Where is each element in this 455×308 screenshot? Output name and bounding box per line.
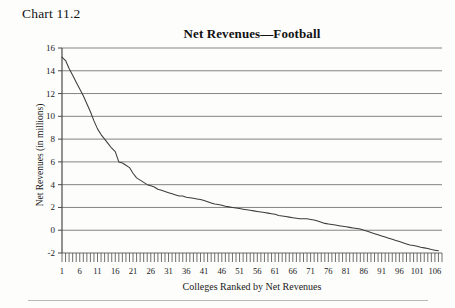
x-tick-label: 16 bbox=[111, 266, 120, 276]
x-tick-label: 106 bbox=[428, 266, 442, 276]
chart-plot-area: -20246810121416 161116212631364146515661… bbox=[0, 0, 455, 308]
page-divider-rule bbox=[28, 300, 428, 301]
x-tick-label: 51 bbox=[235, 266, 244, 276]
y-tick-label: 0 bbox=[51, 225, 56, 235]
x-tick-label: 21 bbox=[129, 266, 138, 276]
x-tick-label: 31 bbox=[164, 266, 173, 276]
y-tick-label: 16 bbox=[46, 43, 56, 53]
chart-page: Chart 11.2 Net Revenues—Football Net Rev… bbox=[0, 0, 455, 308]
x-tick-labels-group: 1611162126313641465156616671768186919610… bbox=[60, 266, 442, 276]
x-tick-label: 96 bbox=[395, 266, 404, 276]
x-minor-tick-marks bbox=[62, 253, 442, 262]
x-tick-label: 61 bbox=[271, 266, 280, 276]
data-series-line bbox=[62, 57, 438, 251]
x-tick-label: 41 bbox=[200, 266, 209, 276]
y-tick-label: 10 bbox=[46, 111, 56, 121]
gridlines-group bbox=[62, 48, 442, 253]
x-tick-label: 11 bbox=[93, 266, 101, 276]
x-tick-label: 66 bbox=[289, 266, 298, 276]
x-tick-label: 76 bbox=[324, 266, 333, 276]
x-tick-label: 101 bbox=[411, 266, 424, 276]
y-tick-label: 4 bbox=[51, 180, 56, 190]
x-tick-label: 36 bbox=[182, 266, 191, 276]
x-tick-label: 1 bbox=[60, 266, 64, 276]
y-tick-label: 2 bbox=[51, 202, 56, 212]
x-tick-label: 81 bbox=[342, 266, 351, 276]
x-tick-label: 6 bbox=[78, 266, 83, 276]
y-tick-label: -2 bbox=[48, 248, 56, 258]
x-tick-label: 86 bbox=[360, 266, 369, 276]
x-tick-label: 56 bbox=[253, 266, 262, 276]
y-tick-label: 12 bbox=[46, 89, 55, 99]
y-tick-labels-group: -20246810121416 bbox=[46, 43, 56, 258]
y-tick-label: 14 bbox=[46, 66, 56, 76]
x-tick-label: 91 bbox=[377, 266, 386, 276]
x-tick-label: 71 bbox=[306, 266, 315, 276]
y-tick-label: 6 bbox=[51, 157, 56, 167]
x-tick-label: 46 bbox=[218, 266, 227, 276]
y-tick-label: 8 bbox=[51, 134, 56, 144]
x-tick-label: 26 bbox=[146, 266, 155, 276]
